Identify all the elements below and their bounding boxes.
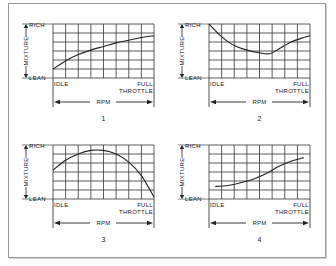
full-label: FULL	[293, 202, 309, 208]
lean-label: LEAN	[185, 75, 202, 81]
full-label: FULL	[137, 81, 153, 87]
arrow-right-icon	[147, 100, 153, 104]
y-axis-label: MIXTURE	[179, 157, 185, 186]
arrow-left-icon	[210, 221, 216, 225]
lean-label: LEAN	[29, 196, 46, 202]
arrow-up-icon	[180, 24, 184, 28]
idle-label: IDLE	[54, 202, 69, 208]
arrow-left-icon	[210, 100, 216, 104]
rich-label: RICH	[29, 22, 45, 28]
grid	[53, 24, 154, 78]
arrow-left-icon	[54, 100, 60, 104]
y-axis-label: MIXTURE	[179, 36, 185, 65]
arrow-right-icon	[303, 100, 309, 104]
arrow-right-icon	[303, 221, 309, 225]
chart-caption: 2	[258, 115, 262, 122]
full-label: FULL	[137, 202, 153, 208]
arrow-up-icon	[180, 145, 184, 149]
idle-label: IDLE	[54, 81, 69, 87]
throttle-label: THROTTLE	[275, 209, 309, 215]
chart-caption: 3	[102, 236, 106, 243]
arrow-down-icon	[24, 74, 28, 78]
arrow-down-icon	[180, 195, 184, 199]
x-axis-label: RPM	[252, 220, 266, 226]
x-axis-label: RPM	[96, 220, 110, 226]
chart-caption: 4	[258, 236, 262, 243]
lean-label: LEAN	[185, 196, 202, 202]
throttle-label: THROTTLE	[119, 209, 153, 215]
x-axis-label: RPM	[252, 99, 266, 105]
arrow-right-icon	[147, 221, 153, 225]
rich-label: RICH	[185, 143, 201, 149]
arrow-down-icon	[180, 74, 184, 78]
chart-panel-4: MIXTURERICHLEANIDLEFULLTHROTTLERPM4	[178, 143, 310, 243]
arrow-down-icon	[24, 195, 28, 199]
throttle-label: THROTTLE	[275, 88, 309, 94]
chart-panel-1: MIXTURERICHLEANIDLEFULLTHROTTLERPM1	[22, 22, 154, 122]
arrow-up-icon	[24, 145, 28, 149]
rich-label: RICH	[185, 22, 201, 28]
x-axis-label: RPM	[96, 99, 110, 105]
chart-caption: 1	[102, 115, 106, 122]
chart-panel-2: MIXTURERICHLEANIDLEFULLTHROTTLERPM2	[178, 22, 310, 122]
y-axis-label: MIXTURE	[23, 36, 29, 65]
mixture-rpm-figure: MIXTURERICHLEANIDLEFULLTHROTTLERPM1MIXTU…	[0, 0, 336, 266]
chart-panel-3: MIXTURERICHLEANIDLEFULLTHROTTLERPM3	[22, 143, 154, 243]
idle-label: IDLE	[210, 202, 225, 208]
idle-label: IDLE	[210, 81, 225, 87]
full-label: FULL	[293, 81, 309, 87]
arrow-left-icon	[54, 221, 60, 225]
rich-label: RICH	[29, 143, 45, 149]
throttle-label: THROTTLE	[119, 88, 153, 94]
y-axis-label: MIXTURE	[23, 157, 29, 186]
grid	[209, 145, 310, 199]
lean-label: LEAN	[29, 75, 46, 81]
grid	[209, 24, 310, 78]
arrow-up-icon	[24, 24, 28, 28]
